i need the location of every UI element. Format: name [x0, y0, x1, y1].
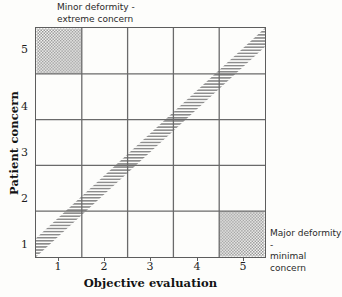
annotation-minor-deformity: Minor deformity - extreme concern: [57, 2, 135, 25]
plot-area: [35, 27, 266, 258]
x-tick-4: 4: [187, 260, 207, 273]
x-tickmark-4: [197, 258, 198, 261]
x-tickmark-2: [104, 258, 105, 261]
chart-figure: 1 2 3 4 5 1 2 3 4 5 Objective evaluation…: [0, 0, 342, 297]
x-tickmark-3: [150, 258, 151, 261]
x-tickmark-5: [243, 258, 244, 261]
annotation-major-deformity: Major deformity - minimal concern: [270, 228, 342, 274]
x-tickmark-1: [58, 258, 59, 261]
x-tick-5: 5: [233, 260, 253, 273]
y-tick-5: 5: [14, 43, 28, 56]
x-tick-2: 2: [94, 260, 114, 273]
x-tick-1: 1: [48, 260, 68, 273]
y-tick-1: 1: [14, 238, 28, 251]
grid-lines: [36, 28, 265, 257]
x-tick-3: 3: [140, 260, 160, 273]
y-axis-title: Patient concern: [7, 83, 21, 203]
x-axis-title: Objective evaluation: [35, 276, 266, 290]
